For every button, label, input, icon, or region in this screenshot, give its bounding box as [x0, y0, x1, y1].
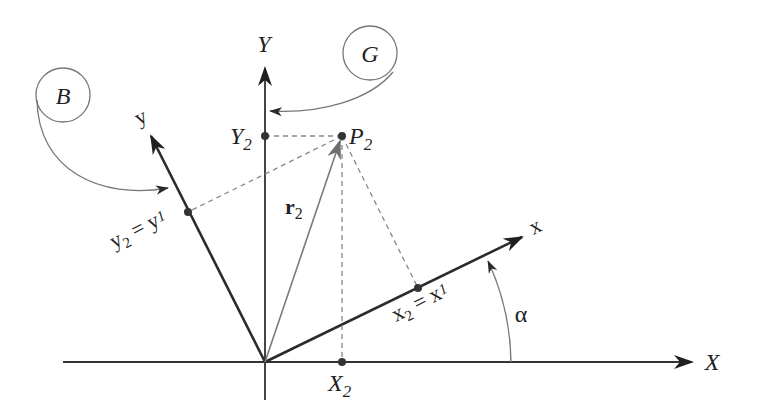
global-X-label: X [704, 349, 721, 375]
point-X2-label: X2 [327, 370, 352, 401]
point-X2 [338, 358, 346, 366]
angle-alpha-label: α [515, 301, 528, 327]
point-Y2 [261, 132, 269, 140]
position-vector-r2 [265, 141, 340, 362]
point-P2-label: P2 [348, 123, 373, 154]
frame-B-curve-arrow [37, 100, 168, 191]
body-y-label: y [130, 103, 151, 130]
x-projection-equation: x2 = x1 [387, 277, 454, 329]
point-P2 [338, 132, 346, 140]
body-x-label: x [524, 212, 545, 239]
dashed-P2-to-x1 [342, 136, 418, 288]
diagram-canvas: B G X Y x y P2 Y2 X2 r2 y2 = y1 x2 = x1 … [0, 0, 760, 420]
point-y1 [184, 208, 192, 216]
frame-G-label: G [361, 41, 378, 67]
point-Y2-label: Y2 [230, 123, 252, 154]
vector-r2-label: r2 [285, 194, 303, 222]
body-y-axis [151, 136, 265, 362]
global-Y-label: Y [257, 31, 273, 57]
body-x-axis [265, 237, 522, 362]
frame-G-indicator [270, 26, 397, 111]
frame-G-curve-arrow [270, 72, 393, 111]
angle-alpha-arc [488, 261, 511, 362]
frame-B-label: B [56, 83, 71, 109]
y-projection-equation: y2 = y1 [105, 204, 172, 256]
